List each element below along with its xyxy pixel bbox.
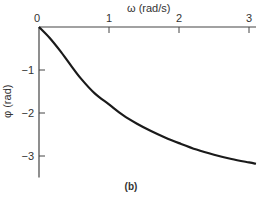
figure-caption: (b) — [125, 181, 138, 192]
y-tick-label: −2 — [21, 107, 34, 119]
y-tick-label: −1 — [21, 64, 34, 76]
phase-curve — [39, 27, 256, 164]
x-axis-label: ω (rad/s) — [127, 2, 170, 14]
x-tick-label: 0 — [34, 12, 40, 24]
x-tick-label: 3 — [246, 12, 252, 24]
phase-plot: 0123−1−2−3 ω (rad/s) φ (rad) (b) — [0, 0, 260, 198]
x-tick-label: 1 — [106, 12, 112, 24]
ticks: 0123−1−2−3 — [21, 12, 252, 162]
y-axis-label: φ (rad) — [1, 85, 13, 118]
x-tick-label: 2 — [176, 12, 182, 24]
axes — [39, 27, 256, 178]
y-tick-label: −3 — [21, 150, 34, 162]
